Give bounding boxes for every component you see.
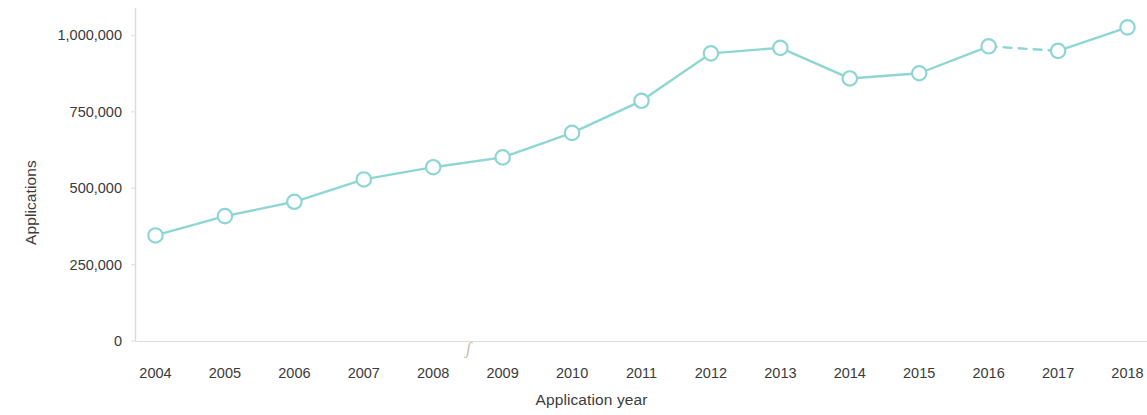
- series-segment: [919, 46, 988, 73]
- data-point-marker[interactable]: [704, 46, 718, 60]
- series-segment: [156, 216, 225, 235]
- data-point-marker[interactable]: [426, 160, 440, 174]
- data-point-marker[interactable]: [843, 71, 857, 85]
- y-axis-tick-label: 0: [14, 333, 122, 349]
- data-point-marker[interactable]: [287, 195, 301, 209]
- x-axis-tick-label: 2015: [903, 365, 935, 381]
- x-axis-title: Application year: [0, 391, 1147, 409]
- data-point-marker[interactable]: [981, 39, 995, 53]
- x-axis-tick-label: 2010: [556, 365, 588, 381]
- x-axis-tick-label: 2004: [139, 365, 171, 381]
- series-segment: [780, 48, 849, 79]
- data-point-marker[interactable]: [634, 94, 648, 108]
- series-segment: [364, 167, 433, 179]
- data-point-marker[interactable]: [357, 172, 371, 186]
- data-point-marker[interactable]: [218, 209, 232, 223]
- data-point-marker[interactable]: [773, 41, 787, 55]
- series-segment: [225, 202, 294, 216]
- series-segment: [572, 101, 641, 133]
- x-axis-tick-label: 2017: [1042, 365, 1074, 381]
- y-axis-tick-label: 1,000,000: [14, 27, 122, 43]
- x-axis-tick-label: 2009: [486, 365, 518, 381]
- x-axis-tick-label: 2016: [972, 365, 1004, 381]
- x-axis-tick-label: 2014: [834, 365, 866, 381]
- x-axis-tick-label: 2018: [1111, 365, 1143, 381]
- series-segment: [1058, 27, 1127, 51]
- series-segment: [503, 133, 572, 157]
- data-point-marker[interactable]: [1120, 20, 1134, 34]
- series-segment: [850, 73, 919, 78]
- series-segment: [433, 157, 502, 167]
- y-axis-title: Applications: [22, 160, 40, 245]
- x-axis-tick-label: 2013: [764, 365, 796, 381]
- data-point-marker[interactable]: [495, 150, 509, 164]
- data-point-marker[interactable]: [912, 66, 926, 80]
- line-chart-figure: 0250,000500,000750,0001,000,000 20042005…: [0, 0, 1147, 415]
- data-point-marker[interactable]: [565, 126, 579, 140]
- series-segment: [989, 46, 1058, 51]
- data-point-marker[interactable]: [148, 228, 162, 242]
- x-axis-tick-label: 2008: [417, 365, 449, 381]
- x-axis-tick-label: 2007: [348, 365, 380, 381]
- series-segment: [294, 179, 363, 201]
- data-series-applications: [148, 20, 1134, 242]
- chart-plot-area: [0, 0, 1147, 415]
- series-segment: [711, 48, 780, 54]
- y-axis-tick-label: 750,000: [14, 104, 122, 120]
- x-axis-tick-label: 2011: [626, 365, 657, 381]
- x-axis-tick-label: 2012: [695, 365, 727, 381]
- x-axis-tick-label: 2005: [209, 365, 241, 381]
- data-point-marker[interactable]: [1051, 44, 1065, 58]
- x-axis-tick-label: 2006: [278, 365, 310, 381]
- series-segment: [642, 53, 711, 100]
- y-axis-tick-label: 250,000: [14, 257, 122, 273]
